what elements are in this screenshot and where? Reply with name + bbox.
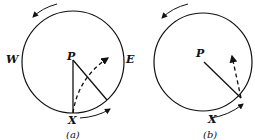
rotation-arrow-a-bottom: [80, 109, 110, 118]
figure-a: W E P X (a): [6, 4, 135, 140]
label-x-a: X: [67, 114, 77, 127]
dashed-path-b: [232, 56, 241, 98]
label-east: E: [125, 53, 135, 66]
circle-b: [154, 13, 252, 111]
caption-b: (b): [203, 129, 217, 140]
label-p-b: P: [195, 47, 205, 60]
label-west: W: [6, 53, 20, 66]
label-x-b: X: [207, 113, 217, 126]
line-p-rim-a: [73, 60, 107, 100]
rotation-arrow-b-top: [162, 4, 188, 18]
diagram-canvas: W E P X (a) P X (b): [0, 0, 255, 140]
line-p-rim-b: [204, 62, 241, 98]
label-p-a: P: [66, 50, 76, 63]
caption-a: (a): [66, 129, 80, 140]
figure-b: P X (b): [154, 4, 252, 140]
